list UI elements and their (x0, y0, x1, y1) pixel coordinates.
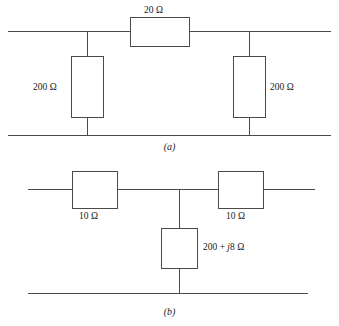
label-resistor-b-series-left-10ohm: 10 Ω (79, 212, 98, 222)
resistor-a-series-20ohm (130, 17, 189, 46)
label-resistor-a-shunt-left-200ohm: 200 Ω (33, 83, 57, 93)
schematic-drawing (0, 0, 339, 326)
circuit-figure: 20 Ω 200 Ω 200 Ω (a) 10 Ω 10 Ω 200 + j8 … (0, 0, 339, 326)
diagram-b-group (28, 171, 315, 293)
impedance-b-shunt-200-j8 (161, 228, 197, 268)
label-resistor-a-series-20ohm: 20 Ω (144, 6, 163, 16)
caption-diagram-b: (b) (0, 307, 339, 317)
label-resistor-a-shunt-right-200ohm: 200 Ω (270, 83, 294, 93)
resistor-a-shunt-left-200ohm (71, 56, 103, 117)
impedance-real-part: 200 + (203, 242, 227, 252)
diagram-a-group (8, 17, 331, 135)
resistor-a-shunt-right-200ohm (233, 56, 265, 117)
label-resistor-b-series-right-10ohm: 10 Ω (226, 212, 245, 222)
caption-diagram-a: (a) (0, 142, 339, 152)
resistor-b-series-left-10ohm (72, 171, 117, 208)
resistor-b-series-right-10ohm (218, 171, 263, 208)
label-impedance-b-shunt-200-j8: 200 + j8 Ω (203, 243, 244, 253)
impedance-imaginary-value: 8 Ω (230, 242, 244, 252)
